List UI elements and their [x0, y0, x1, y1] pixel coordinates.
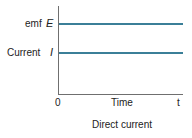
origin-tick-label: 0 [55, 98, 61, 108]
current-symbol: I [50, 47, 53, 57]
current-label: Current [7, 48, 40, 58]
current-trace-line [59, 52, 183, 54]
emf-label: emf [25, 19, 42, 29]
emf-symbol: E [46, 18, 53, 28]
caption: Direct current [92, 120, 152, 130]
emf-trace-line [59, 23, 183, 25]
x-axis [58, 94, 183, 95]
x-axis-title: Time [111, 98, 133, 108]
t-tick-label: t [177, 98, 180, 108]
y-axis [58, 6, 59, 95]
